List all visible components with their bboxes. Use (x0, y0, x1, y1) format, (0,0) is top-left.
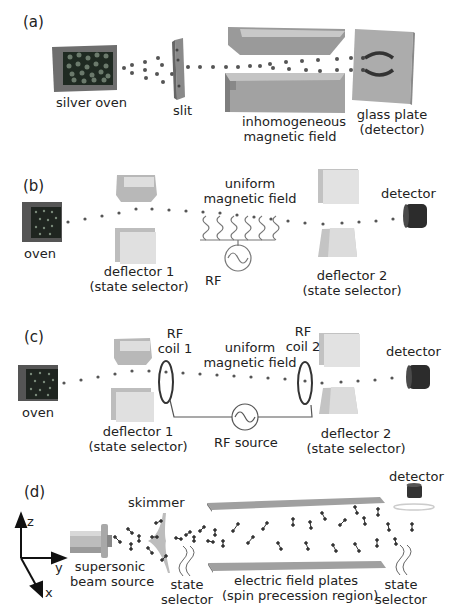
deflector-1-label: deflector 1 (state selector) (88, 264, 190, 294)
skimmer-label: skimmer (128, 495, 185, 510)
supersonic-beam-source-label: supersonic beam source (70, 559, 150, 589)
glass-plate-label: glass plate (detector) (356, 107, 428, 137)
state-selector-1-icon (179, 546, 194, 576)
deflector-2-bottom-icon (318, 228, 357, 257)
electric-field-plates-label: electric field plates (spin precession r… (222, 573, 370, 603)
supersonic-beam-source-icon (70, 524, 112, 558)
rf-coil-2-label: RF coil 2 (283, 324, 323, 354)
panel-d-label: (d) (24, 483, 45, 501)
slit-label: slit (173, 103, 192, 118)
rf-source-icon (200, 216, 279, 271)
coordinate-axes-icon (16, 514, 65, 596)
inhomogeneous-magnet-icon (225, 27, 345, 113)
state-selector-2-label: state selector (374, 577, 428, 607)
oven-icon (18, 365, 58, 401)
atom-beam-dots (62, 369, 393, 384)
detector-icon (406, 365, 430, 389)
uniform-field-label: uniform magnetic field (195, 176, 305, 206)
axis-y-label: y (55, 560, 63, 575)
panel-b: (b) oven uniform magnetic field detector… (0, 140, 457, 305)
panel-c: (c) oven RF coil 1 uniform magnetic fiel… (0, 310, 457, 470)
axis-x-label: x (45, 585, 53, 600)
electric-field-plates-icon (207, 497, 386, 573)
state-selector-1-label: state selector (160, 577, 214, 607)
slit-icon (172, 38, 185, 100)
oven-label: oven (24, 246, 56, 261)
detector-icon (394, 483, 434, 510)
deflector-1-label: deflector 1 (state selector) (87, 424, 189, 454)
atom-beam-dots (66, 207, 394, 225)
deflector-2-bottom-icon (319, 387, 358, 414)
atom-beam-dots (122, 56, 174, 84)
panel-b-label: (b) (23, 177, 44, 195)
glass-plate-detector-icon (352, 29, 415, 105)
detector-icon (403, 204, 427, 228)
deflector-2-top-icon (319, 333, 360, 367)
deflector-1-top-icon (114, 338, 152, 365)
state-selector-2-icon (396, 545, 411, 575)
silver-oven-icon (52, 45, 117, 92)
deflector-2-label: deflector 2 (state selector) (305, 426, 407, 456)
detector-label: detector (389, 469, 444, 484)
rf-coil-1-icon (159, 361, 173, 403)
rf-source-icon (170, 400, 312, 430)
deflector-1-bottom-icon (115, 228, 156, 264)
deflector-1-top-icon (116, 175, 157, 202)
axis-z-label: z (27, 514, 34, 529)
oven-label: oven (22, 405, 54, 420)
silver-oven-label: silver oven (56, 95, 127, 110)
deflector-2-top-icon (318, 169, 359, 204)
rf-source-label: RF source (214, 435, 278, 450)
deflector-2-label: deflector 2 (state selector) (301, 268, 403, 298)
rf-coil-1-label: RF coil 1 (155, 326, 195, 356)
detector-label: detector (381, 186, 436, 201)
deflector-1-bottom-icon (111, 388, 154, 422)
oven-icon (22, 202, 62, 242)
panel-d: (d) z y x skimmer supersonic beam source… (0, 465, 457, 615)
panel-c-label: (c) (24, 328, 44, 346)
detector-label: detector (386, 344, 441, 359)
rf-label: RF (205, 273, 222, 288)
panel-a-label: (a) (23, 13, 44, 31)
panel-a: (a) silver oven slit inhomogeneous magne… (0, 0, 457, 140)
